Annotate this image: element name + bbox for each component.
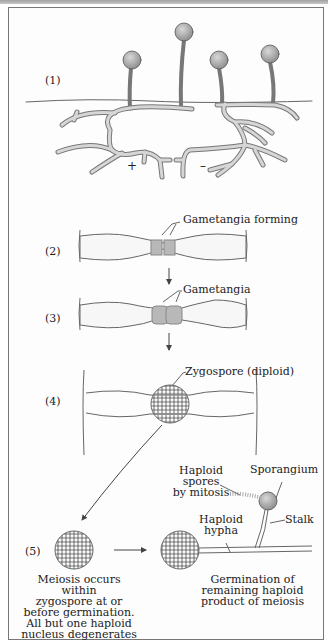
substrate-line	[26, 100, 312, 103]
plus-mating-type: +	[127, 160, 137, 172]
arrow-4-to-5	[82, 425, 162, 520]
label-zygospore: Zygospore (diploid)	[185, 366, 294, 378]
sporangium-icon	[261, 45, 279, 63]
stage-label-1: (1)	[45, 75, 61, 87]
gametangium	[151, 240, 162, 255]
stage-3-gametangia	[79, 291, 247, 330]
stage-label-5: (5)	[25, 546, 41, 558]
label-haploid-spores: Haploid spores by mitosis	[160, 465, 242, 498]
gametangium	[164, 240, 175, 255]
zygospore-meiosis	[55, 531, 93, 569]
sporangiophore	[219, 68, 222, 104]
minus-mating-type: –	[200, 160, 206, 172]
sporangium-icon	[175, 23, 193, 41]
gametangium	[166, 306, 182, 324]
label-gametangia-forming: Gametangia forming	[183, 214, 298, 226]
caption-germination: Germination of remaining haploid product…	[200, 574, 305, 607]
sporangiophore	[181, 40, 184, 106]
sporangiophore	[130, 68, 131, 108]
stage-1-mycelium	[26, 23, 312, 177]
zygospore	[151, 385, 189, 423]
zygospore-germinating	[161, 531, 199, 569]
sporangium-icon	[123, 51, 141, 69]
caption-meiosis: Meiosis occurs within zygospore at or be…	[20, 574, 138, 640]
label-sporangium: Sporangium	[250, 464, 318, 476]
stage-label-3: (3)	[45, 313, 61, 325]
stage-2-gametangia-forming	[79, 222, 247, 262]
sporangiophore	[270, 62, 274, 103]
label-gametangia: Gametangia	[183, 284, 250, 296]
label-haploid-hypha: Haploid hypha	[198, 514, 244, 536]
sporangium-icon	[210, 51, 228, 69]
stalk	[255, 510, 268, 548]
label-stalk: Stalk	[285, 514, 314, 526]
sporangium-icon	[259, 492, 277, 510]
stage-label-2: (2)	[45, 246, 61, 258]
stage-label-4: (4)	[45, 396, 61, 408]
